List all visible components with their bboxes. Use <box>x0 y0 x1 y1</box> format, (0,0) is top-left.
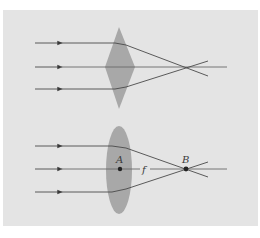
lens-diagram: A f B <box>0 0 260 238</box>
bottom-diagram: A f B <box>35 126 227 214</box>
diamond-lens <box>105 27 135 109</box>
focal-point <box>184 167 189 172</box>
lens-center-point <box>118 167 122 171</box>
top-diagram <box>35 27 227 109</box>
label-b: B <box>181 154 189 165</box>
label-a: A <box>115 154 123 165</box>
label-f: f <box>141 164 148 175</box>
